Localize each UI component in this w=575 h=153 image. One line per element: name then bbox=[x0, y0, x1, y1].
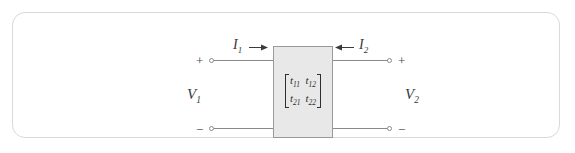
matrix-grid: t11 t12 t21 t22 bbox=[290, 73, 316, 109]
matrix-cell-t22-subscript: 22 bbox=[309, 99, 317, 108]
matrix-cell-t12-subscript: 12 bbox=[309, 80, 317, 89]
matrix-bracket-left bbox=[285, 74, 289, 108]
current-label-i1-subscript: 1 bbox=[238, 45, 243, 55]
matrix-bracket-right bbox=[317, 74, 321, 108]
matrix-cell-t21: t21 bbox=[290, 91, 301, 108]
current-label-i2: I2 bbox=[359, 38, 368, 55]
voltage-label-v1-symbol: V bbox=[187, 86, 196, 102]
voltage-label-v2: V2 bbox=[405, 87, 419, 106]
voltage-label-v2-subscript: 2 bbox=[414, 95, 419, 105]
terminal-right-negative bbox=[387, 126, 392, 131]
diagram-frame: + − + − V1 V2 I1 I2 t11 bbox=[12, 12, 560, 138]
terminal-left-negative bbox=[209, 126, 214, 131]
matrix-cell-t21-subscript: 21 bbox=[293, 99, 301, 108]
current-label-i2-subscript: 2 bbox=[364, 45, 369, 55]
terminal-right-positive bbox=[387, 58, 392, 63]
matrix-cell-t11-subscript: 11 bbox=[293, 80, 300, 89]
wire-bottom-left bbox=[214, 128, 273, 129]
polarity-sign-right-positive: + bbox=[398, 54, 405, 67]
arrow-right-icon bbox=[249, 44, 269, 51]
matrix-cell-t11: t11 bbox=[290, 73, 301, 90]
polarity-sign-right-negative: − bbox=[398, 123, 405, 136]
wire-top-left bbox=[214, 60, 273, 61]
two-port-network-diagram: + − + − V1 V2 I1 I2 t11 bbox=[0, 0, 575, 153]
matrix-cell-t12: t12 bbox=[306, 73, 317, 90]
polarity-sign-left-negative: − bbox=[196, 123, 203, 136]
voltage-label-v1-subscript: 1 bbox=[196, 95, 201, 105]
matrix-cell-t22: t22 bbox=[306, 91, 317, 108]
polarity-sign-left-positive: + bbox=[196, 54, 203, 67]
arrow-left-icon bbox=[334, 44, 354, 51]
wire-bottom-right bbox=[333, 128, 388, 129]
current-label-i1: I1 bbox=[233, 38, 242, 55]
voltage-label-v1: V1 bbox=[187, 87, 201, 106]
terminal-left-positive bbox=[209, 58, 214, 63]
transmission-parameter-matrix: t11 t12 t21 t22 bbox=[275, 73, 331, 109]
voltage-label-v2-symbol: V bbox=[405, 86, 414, 102]
wire-top-right bbox=[333, 60, 388, 61]
